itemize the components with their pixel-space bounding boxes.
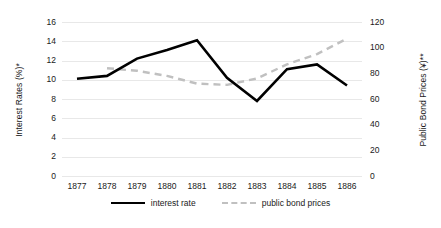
y-axis-left-tick-label: 4	[26, 133, 56, 142]
legend-label-interest-rate: interest rate	[151, 198, 196, 208]
series-line-interest-rate	[77, 40, 347, 101]
legend-swatch-solid-line-icon	[111, 202, 145, 204]
y-axis-left-title: Interest Rates (%)*	[14, 35, 24, 165]
x-axis-tick-label: 1886	[327, 182, 367, 191]
y-axis-right-title: Public Bond Prices (¥)**	[418, 35, 428, 165]
chart-legend: interest rate public bond prices	[0, 198, 441, 208]
y-axis-left-tick-label: 12	[26, 56, 56, 65]
y-axis-right-tick-label: 60	[370, 95, 400, 104]
gridline	[62, 176, 362, 177]
y-axis-left-tick-label: 10	[26, 75, 56, 84]
y-axis-right-tick-label: 120	[370, 18, 400, 27]
y-axis-left-tick-label: 8	[26, 95, 56, 104]
legend-label-public-bond-prices: public bond prices	[262, 198, 331, 208]
legend-swatch-dashed-line-icon	[222, 202, 256, 204]
legend-item-interest-rate[interactable]: interest rate	[111, 198, 196, 208]
chart-container: Interest Rates (%)* Public Bond Prices (…	[0, 0, 441, 228]
y-axis-left-tick-label: 16	[26, 18, 56, 27]
y-axis-left-tick-label: 14	[26, 37, 56, 46]
y-axis-left-tick-label: 0	[26, 172, 56, 181]
y-axis-right-tick-label: 40	[370, 120, 400, 129]
y-axis-right-tick-label: 20	[370, 146, 400, 155]
legend-item-public-bond-prices[interactable]: public bond prices	[222, 198, 331, 208]
y-axis-right-tick-label: 0	[370, 172, 400, 181]
y-axis-right-tick-label: 100	[370, 43, 400, 52]
plot-area	[62, 22, 362, 176]
y-axis-right-tick-label: 80	[370, 69, 400, 78]
y-axis-left-tick-label: 6	[26, 114, 56, 123]
series-layer	[62, 22, 362, 176]
y-axis-left-tick-label: 2	[26, 152, 56, 161]
